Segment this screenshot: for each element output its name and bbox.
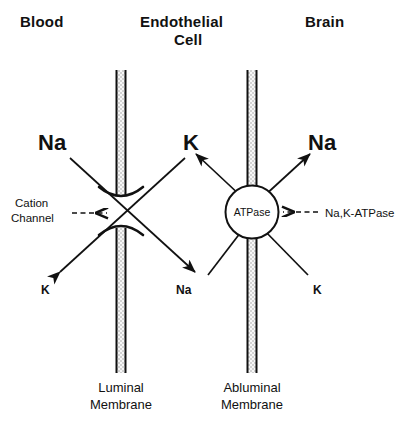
ion-label-k-brain-in: K [313, 283, 322, 297]
region-label-brain: Brain [305, 13, 344, 30]
region-label-endothelial-line1: Endothelial [140, 13, 223, 30]
ion-label-na-cell-in: Na [176, 283, 192, 297]
region-label-endothelial-line2: Cell [174, 31, 202, 48]
cation-channel-label-line1: Cation [15, 197, 48, 209]
blood-brain-barrier-transport-diagram: Blood Endothelial Cell Brain Na K Na K N… [0, 0, 414, 436]
ion-label-k-cell-luminal: K [183, 130, 199, 155]
ion-label-na-blood-luminal: Na [38, 130, 67, 155]
ion-label-k-blood-out: K [41, 283, 50, 297]
atpase-circle-label: ATPase [234, 206, 271, 218]
na-k-atpase-label: Na,K-ATPase [325, 207, 394, 219]
ion-label-na-brain-abluminal: Na [308, 130, 337, 155]
luminal-membrane-caption-line1: Luminal [98, 380, 144, 395]
luminal-membrane-caption-line2: Membrane [90, 397, 152, 412]
abluminal-membrane-caption-line1: Abluminal [223, 380, 280, 395]
region-label-blood: Blood [20, 13, 64, 30]
abluminal-membrane-caption-line2: Membrane [221, 397, 283, 412]
cation-channel-label-line2: Channel [11, 212, 54, 224]
diagram-text-layer: Blood Endothelial Cell Brain Na K Na K N… [0, 0, 414, 436]
